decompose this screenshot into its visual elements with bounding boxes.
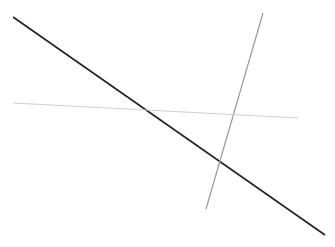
grey-steep-line: [206, 13, 263, 209]
dark-diagonal-line: [13, 17, 325, 235]
line-diagram: [0, 0, 335, 247]
